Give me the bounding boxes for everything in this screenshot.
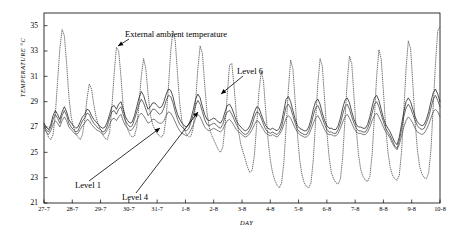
annotation-label: Level 1 <box>75 180 101 190</box>
x-axis-label: DAY <box>240 219 253 226</box>
series-line-level-1 <box>44 109 440 150</box>
series-line-level-6 <box>44 89 440 145</box>
y-tick-label: 23 <box>20 173 38 182</box>
y-tick-label: 29 <box>20 97 38 106</box>
x-tick-label: 28-7 <box>57 205 87 212</box>
annotation-label: External ambient temperature <box>125 29 227 39</box>
series-line-level-4 <box>44 95 440 148</box>
data-series-group <box>44 27 440 188</box>
axis-ticks <box>44 26 440 203</box>
x-tick-label: 5-8 <box>284 205 314 212</box>
y-tick-label: 27 <box>20 122 38 131</box>
y-tick-label: 35 <box>20 21 38 30</box>
x-tick-label: 30-7 <box>114 205 144 212</box>
x-tick-label: 3-8 <box>227 205 257 212</box>
x-tick-label: 2-8 <box>199 205 229 212</box>
annotation-leader <box>89 128 160 181</box>
temperature-chart-figure: TEMPERATURE °C DAY 2123252729313335 27-7… <box>0 0 454 242</box>
annotation-label: Level 6 <box>237 66 263 76</box>
y-tick-label: 31 <box>20 72 38 81</box>
x-tick-label: 8-8 <box>368 205 398 212</box>
x-tick-label: 6-8 <box>312 205 342 212</box>
x-tick-label: 31-7 <box>142 205 172 212</box>
annotation-label: Level 4 <box>122 192 148 202</box>
x-tick-label: 10-8 <box>425 205 454 212</box>
x-tick-label: 9-8 <box>397 205 427 212</box>
y-tick-label: 25 <box>20 148 38 157</box>
x-tick-label: 7-8 <box>340 205 370 212</box>
x-tick-label: 1-8 <box>170 205 200 212</box>
y-tick-label: 33 <box>20 46 38 55</box>
annotation-leader <box>136 112 198 193</box>
x-tick-label: 29-7 <box>86 205 116 212</box>
x-tick-label: 27-7 <box>29 205 59 212</box>
x-tick-label: 4-8 <box>255 205 285 212</box>
annotation-arrowhead <box>118 41 123 46</box>
